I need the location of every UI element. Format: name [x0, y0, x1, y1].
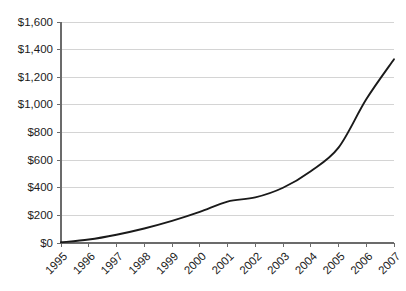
y-tick-label: $1,400 — [18, 43, 53, 55]
y-tick-label: $1,600 — [18, 16, 53, 28]
y-tick-label: $400 — [27, 181, 53, 193]
y-tick-label: $200 — [27, 209, 53, 221]
y-tick-label: $0 — [40, 237, 53, 249]
chart-canvas: $0$200$400$600$800$1,000$1,200$1,400$1,6… — [0, 0, 406, 291]
line-chart: $0$200$400$600$800$1,000$1,200$1,400$1,6… — [0, 0, 406, 291]
y-tick-label: $800 — [27, 126, 53, 138]
y-tick-label: $1,000 — [18, 98, 53, 110]
y-tick-label: $600 — [27, 154, 53, 166]
y-tick-label: $1,200 — [18, 71, 53, 83]
